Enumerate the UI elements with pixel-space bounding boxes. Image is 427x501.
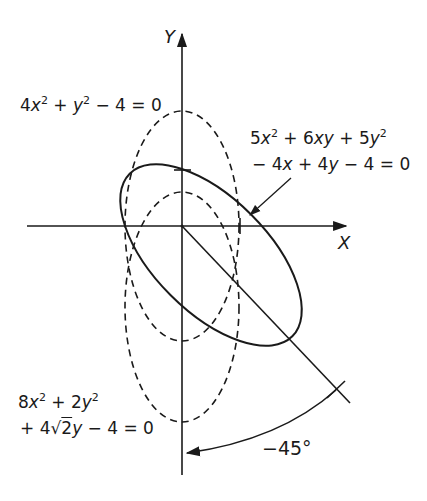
x-axis-label: X (338, 232, 350, 253)
origin-point (181, 225, 184, 228)
sqrt-symbol: √ (50, 418, 61, 438)
equation-solid-line2: − 4x + 4y − 4 = 0 (252, 154, 410, 174)
rotated-axis (182, 226, 350, 403)
leader-arrow (250, 178, 291, 215)
rotation-angle-label: −45° (262, 438, 312, 458)
y-axis-label: Y (164, 26, 175, 47)
equation-solid-line1: 5x2 + 6xy + 5y2 (250, 128, 387, 148)
equation-dashed-centered: 4x2 + y2 − 4 = 0 (20, 95, 162, 115)
equation-shifted-line1: 8x2 + 2y2 (18, 392, 99, 412)
equation-shifted-line2: + 4√2y − 4 = 0 (20, 418, 154, 438)
